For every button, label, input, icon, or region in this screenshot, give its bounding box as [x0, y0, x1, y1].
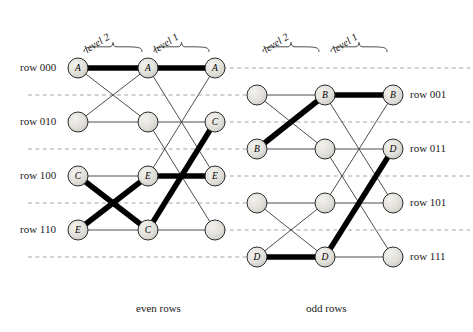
butterfly-network-figure: ACEAECACEBDBDBD row 000row 010row 100row… [0, 0, 473, 332]
caption-even: even rows [136, 302, 181, 314]
node-label: A [74, 63, 81, 73]
network-node [315, 139, 335, 159]
network-node [247, 193, 267, 213]
node-label: E [74, 225, 81, 235]
network-node: D [383, 139, 403, 159]
node-label: E [211, 171, 218, 181]
node-label: B [390, 90, 396, 100]
network-node: A [68, 58, 88, 78]
node-label: C [75, 171, 82, 181]
row-label-row-010: row 010 [20, 115, 56, 127]
network-node: C [138, 220, 158, 240]
row-label-row-101: row 101 [410, 196, 446, 208]
network-node: D [315, 247, 335, 267]
row-label-row-001: row 001 [410, 88, 446, 100]
figure-canvas: ACEAECACEBDBDBD [0, 0, 473, 332]
network-node: A [205, 58, 225, 78]
node-label: C [212, 117, 219, 127]
network-node: E [205, 166, 225, 186]
node-label: A [211, 63, 218, 73]
network-nodes: ACEAECACEBDBDBD [68, 58, 403, 267]
network-node [315, 193, 335, 213]
row-label-row-111: row 111 [410, 250, 446, 262]
caption-odd: odd rows [306, 302, 347, 314]
row-label-row-011: row 011 [410, 142, 446, 154]
network-edges [78, 68, 393, 257]
node-label: A [144, 63, 151, 73]
row-label-row-000: row 000 [20, 61, 56, 73]
node-label: D [321, 252, 329, 262]
network-node: B [315, 85, 335, 105]
network-node [68, 112, 88, 132]
row-label-row-110: row 110 [20, 223, 56, 235]
row-label-row-100: row 100 [20, 169, 56, 181]
node-label: D [389, 144, 397, 154]
node-label: E [144, 171, 151, 181]
node-label: B [322, 90, 328, 100]
network-node: B [247, 139, 267, 159]
network-node [138, 112, 158, 132]
network-node [205, 220, 225, 240]
network-node: C [68, 166, 88, 186]
network-node [247, 85, 267, 105]
network-node: C [205, 112, 225, 132]
network-node: E [138, 166, 158, 186]
network-node: A [138, 58, 158, 78]
network-node [383, 193, 403, 213]
network-node: E [68, 220, 88, 240]
network-node: B [383, 85, 403, 105]
node-label: C [145, 225, 152, 235]
node-label: B [254, 144, 260, 154]
node-label: D [253, 252, 261, 262]
network-node: D [247, 247, 267, 267]
network-node [383, 247, 403, 267]
